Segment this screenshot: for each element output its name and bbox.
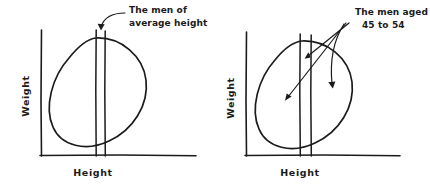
left-annotation-text: The men of average height xyxy=(129,5,208,28)
left-x-axis-label: Height xyxy=(73,167,112,178)
right-y-axis xyxy=(246,32,247,156)
left-hook-arrow-line xyxy=(101,13,125,27)
right-arrow-line-2 xyxy=(288,23,346,97)
left-vertical-band xyxy=(96,30,106,156)
right-arrow-head-3 xyxy=(328,82,335,89)
right-annotation-text: The men aged 45 to 54 xyxy=(355,7,428,30)
right-annotation-line-2: 45 to 54 xyxy=(362,20,405,30)
right-x-axis xyxy=(245,155,400,156)
left-band-line-2 xyxy=(105,31,106,156)
left-scatter-ellipse xyxy=(49,38,146,147)
right-vertical-band xyxy=(300,34,312,156)
left-y-axis-label: Weight xyxy=(20,75,31,117)
left-annotation-line-1: The men of xyxy=(129,5,187,15)
left-x-axis xyxy=(40,155,196,156)
right-panel: The men aged 45 to 54 Height Weight xyxy=(225,7,428,178)
right-band-line-1 xyxy=(300,34,301,156)
right-y-axis-label: Weight xyxy=(225,77,236,119)
left-annotation-line-2: average height xyxy=(129,18,208,28)
left-panel: The men of average height Height Weight xyxy=(20,5,208,178)
left-panel-axes xyxy=(40,30,196,156)
left-annotation-pointer xyxy=(98,13,125,31)
left-hook-arrow-head xyxy=(98,24,105,31)
right-arrow-head-1 xyxy=(305,52,311,59)
diagram-svg: The men of average height Height Weight xyxy=(0,0,430,184)
right-x-axis-label: Height xyxy=(280,167,319,178)
right-annotation-line-1: The men aged xyxy=(355,7,428,17)
figure-canvas: The men of average height Height Weight xyxy=(0,0,430,184)
right-scatter-ellipse xyxy=(255,41,352,149)
right-panel-axes xyxy=(245,32,400,156)
right-annotation-pointers xyxy=(285,23,349,101)
left-y-axis xyxy=(41,30,42,156)
